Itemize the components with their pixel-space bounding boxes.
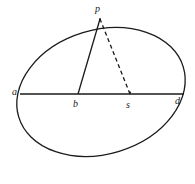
ellipse-outline xyxy=(1,8,195,177)
point-label-s: s xyxy=(126,100,130,110)
geometry-figure: p a b s d xyxy=(0,0,195,184)
point-label-d: d xyxy=(175,96,180,106)
point-label-p: p xyxy=(95,4,100,14)
segment-b-p xyxy=(78,19,100,94)
point-label-a: a xyxy=(12,87,17,97)
dashed-segment-s-p xyxy=(100,19,130,94)
figure-canvas xyxy=(0,0,195,184)
point-marker-s xyxy=(129,91,131,93)
point-marker-p xyxy=(99,18,101,20)
point-label-b: b xyxy=(73,99,78,109)
